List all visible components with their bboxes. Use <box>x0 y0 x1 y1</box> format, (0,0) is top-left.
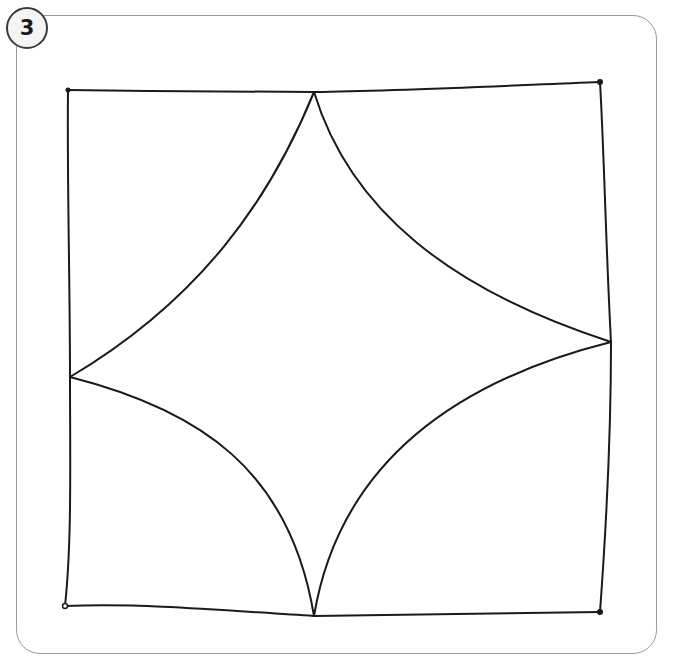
corner-dot-bottom-left <box>63 604 68 609</box>
tangle-drawing <box>0 0 673 660</box>
corner-dot-top-left <box>66 88 71 93</box>
square-left-edge <box>65 90 70 606</box>
corner-dot-top-right <box>597 79 603 85</box>
corner-dot-bottom-right <box>597 609 603 615</box>
arc-top-right <box>314 92 611 342</box>
square-bottom-edge <box>65 605 600 616</box>
arc-top-left <box>70 92 314 377</box>
square-top-edge <box>68 82 600 92</box>
square-right-edge <box>600 82 611 612</box>
arc-bottom-right <box>314 342 611 616</box>
arc-bottom-left <box>70 377 314 616</box>
